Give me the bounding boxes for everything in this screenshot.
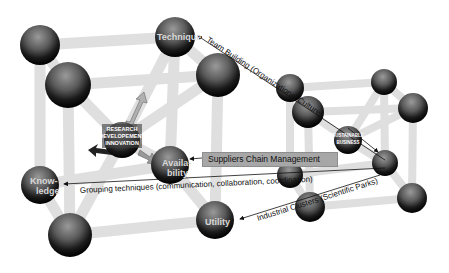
diagram-canvas: Technique Know- ledge Availa- bility Uti… (0, 0, 449, 273)
hub-rdi-line1: RESEARCH (107, 126, 138, 132)
label-knowledge-1: Know- (30, 176, 58, 186)
hub-rdi-line2: DEVELOPEMENT (99, 133, 145, 139)
hub-sb-line2: BUSINESS (336, 140, 359, 145)
sphere-node (45, 62, 91, 108)
hub-sb-line1: SUSTAINABLE (332, 133, 364, 138)
sphere-node (20, 25, 60, 65)
sphere-node (371, 69, 397, 95)
hub-rdi-line3: INNOVATION (105, 140, 139, 146)
suppliers-chain-management-box: Suppliers Chain Management (202, 152, 338, 167)
label-utility: Utility (205, 217, 230, 227)
sphere-node (397, 183, 427, 213)
label-technique: Technique (157, 32, 201, 42)
suppliers-line (190, 158, 202, 159)
label-availability-1: Availa- (162, 158, 191, 168)
lattice-diagram: Technique Know- ledge Availa- bility Uti… (0, 0, 449, 273)
right-cube-spheres (276, 69, 428, 222)
label-availability-2: bility (167, 168, 188, 178)
sphere-node (48, 213, 92, 257)
label-knowledge-2: ledge (36, 186, 60, 196)
sphere-node (398, 93, 428, 123)
suppliers-chain-management-label: Suppliers Chain Management (208, 154, 320, 164)
